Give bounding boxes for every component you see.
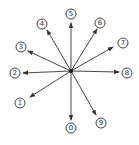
arrow-8 bbox=[71, 71, 119, 72]
circled-label-0: 0 bbox=[66, 123, 77, 134]
arrow-9 bbox=[71, 71, 96, 115]
arrow-4 bbox=[47, 30, 71, 71]
circled-label-3: 3 bbox=[16, 42, 27, 53]
circled-label-7: 7 bbox=[118, 38, 129, 49]
circled-label-5: 5 bbox=[66, 9, 77, 20]
arrow-2 bbox=[23, 71, 71, 73]
circled-label-2: 2 bbox=[10, 68, 21, 79]
circled-label-6: 6 bbox=[95, 18, 106, 29]
arrow-1 bbox=[30, 71, 71, 97]
circled-label-9: 9 bbox=[96, 118, 107, 129]
arrow-7 bbox=[71, 47, 113, 71]
center-point bbox=[69, 69, 73, 73]
circled-label-8: 8 bbox=[122, 68, 133, 79]
arrow-3 bbox=[28, 51, 71, 71]
arrow-6 bbox=[71, 29, 97, 71]
circled-label-4: 4 bbox=[37, 19, 48, 30]
circled-label-1: 1 bbox=[15, 98, 26, 109]
